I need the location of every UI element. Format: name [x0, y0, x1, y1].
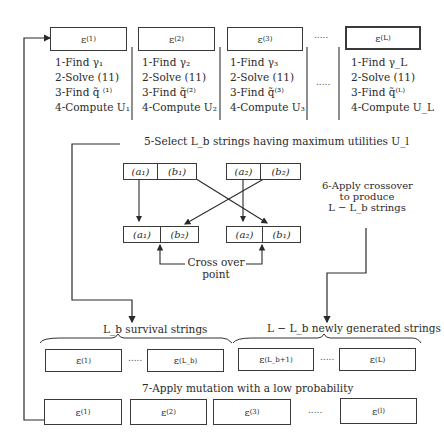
child2-b: (b₁) — [262, 226, 301, 243]
child1-a: (a₁) — [123, 226, 161, 243]
steps-string-2: 1-Find γ₂ 2-Solve (11) 3-Find q̃⁽²⁾ 4-Co… — [142, 55, 217, 115]
steps-string-3: 1-Find γ₃ 2-Solve (11) 3-Find q̃⁽³⁾ 4-Co… — [230, 55, 305, 115]
steps-string-L: 1-Find γ_L 2-Solve (11) 3-Find q̃⁽ᴸ⁾ 4-C… — [351, 55, 434, 115]
crossover-point-label: Cross over point — [186, 256, 246, 280]
parent1-a: (a₁) — [123, 163, 158, 180]
ellipsis: ..... — [314, 30, 328, 40]
survival-group-label: L_b survival strings — [103, 323, 208, 335]
child2-a: (a₂) — [226, 226, 263, 243]
string-box-1: ε(1) — [50, 27, 127, 51]
steps-string-1: 1-Find γ₁ 2-Solve (11) 3-Find q̃ ⁽¹⁾ 4-C… — [55, 55, 130, 115]
ellipsis: ..... — [320, 352, 334, 362]
survival-string-Lb: ε(L_b) — [147, 349, 224, 372]
mutated-string-l: ε(l) — [340, 398, 417, 424]
ellipsis: ..... — [128, 353, 142, 363]
ellipsis: ..... — [316, 77, 330, 87]
string-box-L: ε(L) — [345, 26, 421, 50]
parent2-a: (a₂) — [226, 163, 261, 180]
new-string-Lb-plus-1: ε(L_b+1) — [238, 348, 314, 371]
mutated-string-3: ε(3) — [213, 399, 291, 425]
parent1-b: (b₁) — [157, 163, 197, 180]
string-box-3: ε(3) — [227, 27, 303, 51]
child1-b: (b₂) — [160, 226, 199, 243]
step5-label: 5-Select L_b strings having maximum util… — [144, 135, 409, 147]
parent2-b: (b₂) — [260, 163, 301, 180]
mutated-string-2: ε(2) — [130, 399, 207, 425]
new-string-L: ε(L) — [339, 348, 416, 371]
step7-label: 7-Apply mutation with a low probability — [142, 382, 353, 394]
ellipsis: ..... — [308, 405, 322, 415]
string-box-2: ε(2) — [138, 27, 215, 51]
new-group-label: L − L_b newly generated strings — [267, 322, 441, 334]
survival-string-1: ε(1) — [45, 349, 122, 372]
step6-label: 6-Apply crossover to produce L − L_b str… — [322, 180, 412, 213]
mutated-string-1: ε(1) — [44, 399, 122, 425]
